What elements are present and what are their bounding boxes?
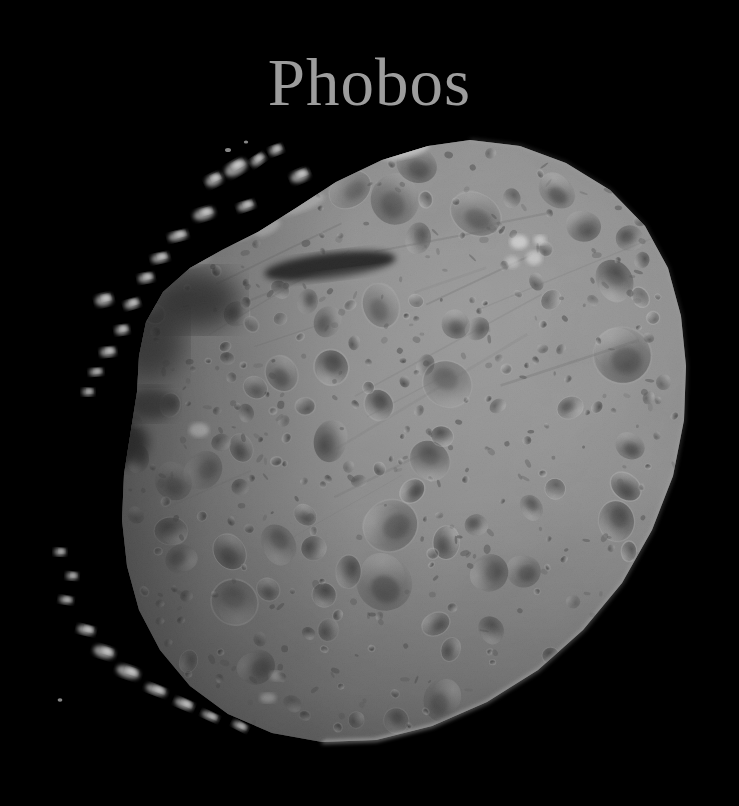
phobos-moon-photograph [0,0,739,806]
detached-speck [225,148,231,152]
detached-speck [58,698,63,702]
detached-speck [244,140,248,143]
phobos-image-frame: Phobos [0,0,739,806]
rugged-peak [82,388,94,396]
page-title: Phobos [0,49,739,116]
